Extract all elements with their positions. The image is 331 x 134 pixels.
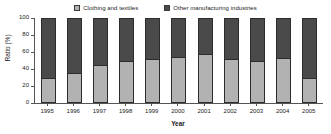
- x-axis-tick-label: 1999: [144, 107, 159, 117]
- x-axis-labels: 1995199619971998199920002001200220032004…: [34, 107, 322, 117]
- bar-column: [276, 18, 291, 103]
- bar-segment-clothing-and-textiles: [250, 61, 265, 104]
- legend-item-other-manufacturing-industries: Other manufacturing industries: [164, 5, 257, 12]
- x-axis-tick-label: 1997: [92, 107, 107, 117]
- plot-area: [34, 18, 323, 104]
- bar-segment-clothing-and-textiles: [198, 54, 213, 103]
- chart-legend: Clothing and textiles Other manufacturin…: [0, 2, 331, 14]
- x-axis-tick-label: 2002: [223, 107, 238, 117]
- y-axis-tick-label: 100: [19, 14, 29, 21]
- x-axis-tick-label: 1996: [66, 107, 81, 117]
- y-axis-tick: 20: [0, 86, 34, 87]
- x-axis-tick-label: 2001: [197, 107, 212, 117]
- bar-segment-clothing-and-textiles: [41, 78, 56, 104]
- legend-swatch-clothing-and-textiles: [74, 5, 80, 11]
- bar-column: [171, 18, 186, 103]
- bar-segment-other-manufacturing-industries: [171, 18, 186, 57]
- bar-segment-other-manufacturing-industries: [224, 18, 239, 59]
- bar-column: [41, 18, 56, 103]
- y-axis-tick-label: 40: [22, 65, 29, 72]
- bar-series-container: [35, 18, 323, 103]
- x-axis-tick-label: 2000: [170, 107, 185, 117]
- bar-segment-other-manufacturing-industries: [41, 18, 56, 78]
- x-axis-tick-label: 2005: [301, 107, 316, 117]
- bar-segment-clothing-and-textiles: [276, 58, 291, 103]
- stacked-bar-chart: Clothing and textiles Other manufacturin…: [0, 0, 331, 134]
- y-axis-tick-label: 0: [26, 99, 29, 106]
- y-axis-tick-label: 80: [22, 31, 29, 38]
- bar-segment-clothing-and-textiles: [93, 65, 108, 103]
- bar-segment-other-manufacturing-industries: [276, 18, 291, 58]
- x-axis-tick-label: 1995: [40, 107, 55, 117]
- legend-swatch-other-manufacturing-industries: [164, 5, 170, 11]
- bar-segment-clothing-and-textiles: [67, 73, 82, 103]
- bar-segment-other-manufacturing-industries: [302, 18, 317, 78]
- bar-segment-other-manufacturing-industries: [198, 18, 213, 54]
- y-axis-title: Ratio (%): [4, 21, 12, 75]
- x-axis-tick-label: 2004: [275, 107, 290, 117]
- x-axis-tick-label: 1998: [118, 107, 133, 117]
- bar-segment-clothing-and-textiles: [224, 59, 239, 103]
- x-axis-title: Year: [34, 120, 322, 128]
- bar-segment-clothing-and-textiles: [145, 59, 160, 103]
- bar-segment-clothing-and-textiles: [302, 78, 317, 104]
- bar-column: [119, 18, 134, 103]
- bar-segment-other-manufacturing-industries: [119, 18, 134, 61]
- bar-segment-other-manufacturing-industries: [67, 18, 82, 73]
- bar-segment-clothing-and-textiles: [171, 57, 186, 103]
- legend-item-clothing-and-textiles: Clothing and textiles: [74, 5, 138, 12]
- bar-column: [67, 18, 82, 103]
- y-axis-tick-label: 20: [22, 82, 29, 89]
- bar-segment-other-manufacturing-industries: [93, 18, 108, 65]
- bar-column: [302, 18, 317, 103]
- bar-column: [198, 18, 213, 103]
- y-axis-tick: 100: [0, 18, 34, 19]
- bar-segment-clothing-and-textiles: [119, 61, 134, 104]
- bar-column: [250, 18, 265, 103]
- bar-segment-other-manufacturing-industries: [145, 18, 160, 59]
- y-axis-tick: 0: [0, 103, 34, 104]
- legend-label-other-manufacturing-industries: Other manufacturing industries: [173, 5, 257, 12]
- bar-segment-other-manufacturing-industries: [250, 18, 265, 61]
- bar-column: [145, 18, 160, 103]
- x-axis-tick-label: 2003: [249, 107, 264, 117]
- y-axis-tick-label: 60: [22, 48, 29, 55]
- bar-column: [224, 18, 239, 103]
- bar-column: [93, 18, 108, 103]
- legend-label-clothing-and-textiles: Clothing and textiles: [83, 5, 138, 12]
